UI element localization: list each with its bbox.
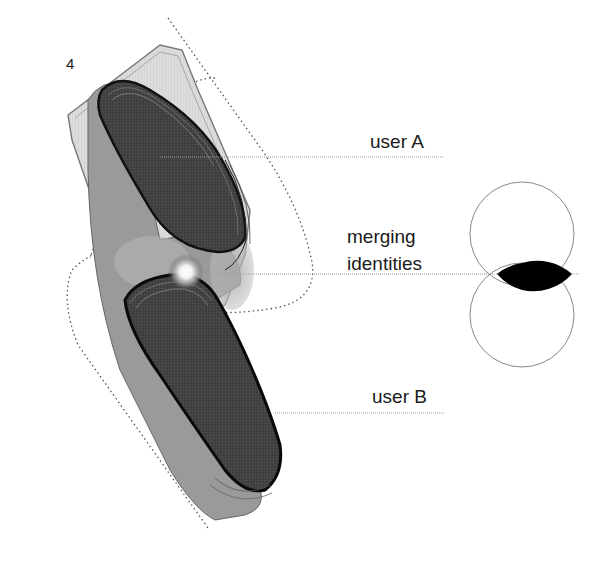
label-merging-identities: merging identities — [347, 223, 422, 277]
venn-diagram — [470, 182, 574, 367]
label-merging-line2: identities — [347, 250, 422, 277]
figure-number: 4 — [66, 55, 74, 72]
merging-identities-diagram — [0, 0, 593, 562]
label-user-b: user B — [372, 386, 427, 408]
label-user-a: user A — [370, 131, 424, 153]
label-merging-line1: merging — [347, 223, 422, 250]
merge-glow — [168, 254, 204, 290]
